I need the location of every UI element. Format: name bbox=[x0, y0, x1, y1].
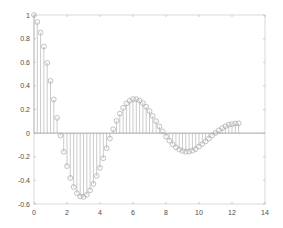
y-tick-label: 0.4 bbox=[20, 82, 30, 89]
y-tick-label: -0.6 bbox=[18, 201, 30, 208]
y-tick-label: 0.6 bbox=[20, 59, 30, 66]
axes-box bbox=[34, 15, 265, 204]
x-tick-label: 12 bbox=[228, 209, 236, 216]
plot-area bbox=[34, 15, 265, 204]
y-tick-label: 0.8 bbox=[20, 35, 30, 42]
x-tick-label: 14 bbox=[261, 209, 269, 216]
x-tick-label: 10 bbox=[195, 209, 203, 216]
y-tick-label: 1 bbox=[26, 12, 30, 19]
x-tick-label: 2 bbox=[65, 209, 69, 216]
y-tick-label: -0.4 bbox=[18, 177, 30, 184]
y-tick-label: -0.2 bbox=[18, 153, 30, 160]
x-tick-label: 6 bbox=[131, 209, 135, 216]
stem-chart: 02468101214 -0.6-0.4-0.200.20.40.60.81 bbox=[0, 0, 283, 228]
y-tick-label: 0.2 bbox=[20, 106, 30, 113]
x-tick-label: 8 bbox=[164, 209, 168, 216]
y-tick-label: 0 bbox=[26, 130, 30, 137]
x-tick-label: 4 bbox=[98, 209, 102, 216]
x-tick-label: 0 bbox=[32, 209, 36, 216]
